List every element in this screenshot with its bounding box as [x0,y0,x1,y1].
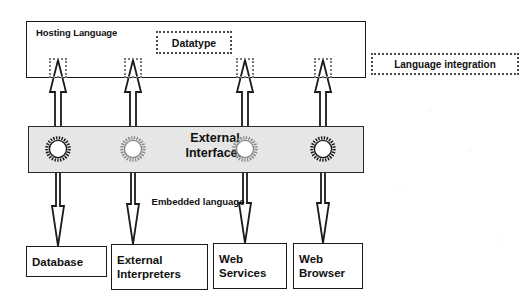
leaf-box-database: Database [26,246,107,277]
leaf-label: Web Browser [299,252,345,280]
leaf-label: External Interpreters [117,253,181,281]
arrow-down-col4 [317,172,329,243]
port-square-col2 [124,58,142,78]
arrow-down-col1 [52,172,64,246]
leaf-box-web-browser: Web Browser [293,243,363,289]
gear-icon [310,136,336,162]
embedded-language-label: Embedded language [150,196,246,208]
language-integration-box: Language integration [371,53,519,75]
leaf-label: Database [32,255,83,269]
hosting-language-label: Hosting Language [36,27,117,38]
port-square-col3 [236,58,254,78]
leaf-box-web-services: Web Services [213,243,287,289]
gear-icon [45,136,71,162]
language-integration-label: Language integration [394,59,496,70]
arrow-down-col2 [127,172,139,244]
port-square-col1 [49,58,67,78]
datatype-box: Datatype [156,31,232,54]
gear-icon [232,136,258,162]
diagram-canvas: Hosting Language Datatype Language integ… [0,0,526,302]
datatype-label: Datatype [172,37,216,49]
leaf-label: Web Services [219,252,266,280]
leaf-box-external-interpreters: External Interpreters [111,244,208,290]
gear-icon [120,136,146,162]
port-square-col4 [314,58,332,78]
